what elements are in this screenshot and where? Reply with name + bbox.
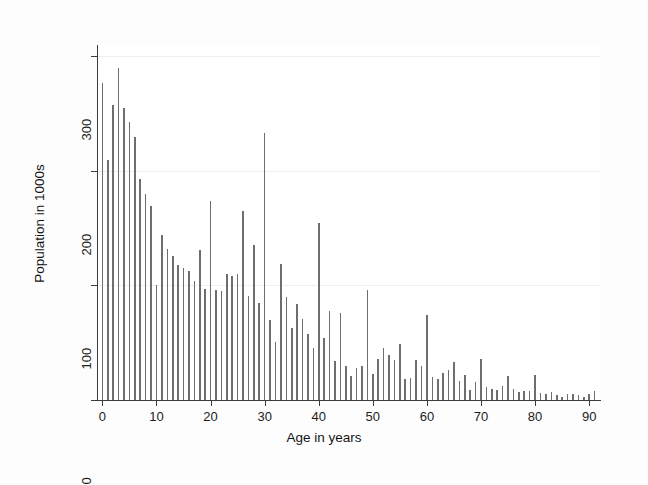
bar	[469, 390, 471, 400]
bar	[291, 328, 293, 400]
bar	[183, 268, 185, 400]
bar	[161, 235, 163, 400]
x-tick	[589, 401, 590, 406]
bar	[367, 290, 369, 400]
bar	[345, 366, 347, 400]
x-tick-label: 90	[569, 409, 609, 424]
x-tick	[265, 401, 266, 406]
bar	[383, 348, 385, 400]
x-tick-label: 60	[407, 409, 447, 424]
bar	[123, 108, 125, 400]
y-tick-label: 300	[79, 55, 94, 141]
y-axis-label-text: Population in 1000s	[32, 164, 47, 283]
bar	[204, 289, 206, 400]
bar	[356, 368, 358, 400]
bar	[551, 392, 553, 400]
bar	[129, 122, 131, 400]
x-tick-label: 10	[136, 409, 176, 424]
bar	[513, 389, 515, 400]
bar	[210, 201, 212, 400]
bar	[275, 342, 277, 400]
bar	[107, 160, 109, 400]
bar	[415, 360, 417, 400]
bar	[302, 319, 304, 400]
x-tick	[156, 401, 157, 406]
x-tick	[102, 401, 103, 406]
bar	[453, 362, 455, 400]
bar	[399, 344, 401, 400]
bar	[486, 387, 488, 400]
bar	[350, 376, 352, 400]
bar	[432, 377, 434, 400]
bar	[248, 296, 250, 400]
x-axis-line	[96, 400, 601, 401]
bar	[139, 179, 141, 400]
bar	[172, 256, 174, 400]
x-tick	[535, 401, 536, 406]
bar	[340, 313, 342, 400]
bar	[534, 375, 536, 400]
bar	[269, 320, 271, 400]
bar	[594, 391, 596, 400]
bar	[523, 391, 525, 400]
bar	[334, 361, 336, 400]
bar	[372, 374, 374, 400]
x-tick-label: 30	[245, 409, 285, 424]
bar	[377, 359, 379, 400]
bar	[459, 381, 461, 400]
bar	[264, 133, 266, 400]
x-tick-label: 70	[461, 409, 501, 424]
plot-area	[97, 45, 600, 400]
x-tick	[481, 401, 482, 406]
y-tick-label: 200	[79, 169, 94, 255]
bar	[226, 274, 228, 400]
bar	[318, 223, 320, 401]
bar	[313, 348, 315, 400]
bar	[448, 370, 450, 400]
y-axis-line	[97, 45, 98, 401]
bar	[426, 315, 428, 400]
bar	[323, 338, 325, 400]
bar	[502, 386, 504, 400]
bar	[280, 264, 282, 400]
bar	[150, 206, 152, 400]
bar	[177, 265, 179, 400]
bar	[410, 378, 412, 400]
bar	[307, 334, 309, 400]
bar	[231, 276, 233, 400]
bar	[480, 359, 482, 400]
x-tick	[427, 401, 428, 406]
bar	[253, 245, 255, 400]
bar	[102, 83, 104, 400]
bar-series	[97, 45, 600, 400]
bar	[529, 391, 531, 400]
bar	[215, 290, 217, 400]
x-tick	[211, 401, 212, 406]
bar	[437, 379, 439, 400]
bar	[442, 373, 444, 400]
bar	[296, 304, 298, 400]
bar	[194, 281, 196, 400]
x-tick	[373, 401, 374, 406]
x-tick-label: 20	[191, 409, 231, 424]
bar	[188, 271, 190, 400]
x-tick-label: 80	[515, 409, 555, 424]
bar	[491, 389, 493, 400]
bar	[199, 250, 201, 400]
x-tick-label: 50	[353, 409, 393, 424]
x-tick-label: 0	[82, 409, 122, 424]
bar	[475, 382, 477, 400]
x-axis-label: Age in years	[0, 430, 648, 445]
bar	[156, 285, 158, 400]
bar	[237, 274, 239, 400]
bar	[361, 366, 363, 400]
y-tick-label: 100	[79, 284, 94, 370]
bar	[221, 291, 223, 400]
bar	[404, 379, 406, 400]
bar	[145, 194, 147, 400]
bar	[518, 392, 520, 400]
bar	[134, 137, 136, 400]
bar	[242, 211, 244, 400]
bar	[496, 390, 498, 400]
bar	[388, 355, 390, 400]
